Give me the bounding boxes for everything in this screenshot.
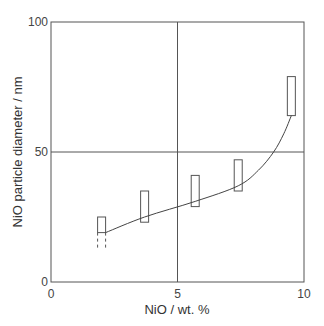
x-tick-label: 10: [297, 287, 311, 301]
tick-labels: 0510050100: [28, 15, 311, 301]
y-tick-label: 100: [28, 15, 48, 29]
y-tick-label: 50: [35, 145, 49, 159]
trend-curve: [106, 116, 292, 233]
x-tick-label: 5: [174, 287, 181, 301]
x-tick-label: 0: [48, 287, 55, 301]
grid-lines: [51, 22, 304, 282]
y-axis-label: NiO particle diameter / nm: [10, 77, 25, 228]
range-bar: [287, 77, 295, 116]
range-bar: [98, 217, 106, 233]
chart: 0510050100 NiO / wt. % NiO particle diam…: [0, 0, 324, 326]
x-axis-label: NiO / wt. %: [144, 302, 209, 317]
y-tick-label: 0: [41, 275, 48, 289]
